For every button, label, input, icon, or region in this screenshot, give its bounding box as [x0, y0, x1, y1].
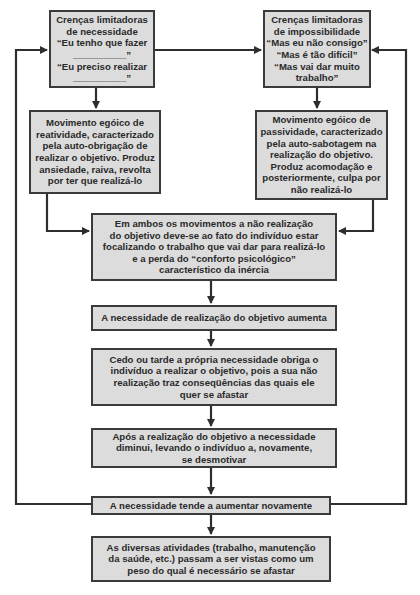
box-tende-aumentar: A necessidade tende a aumentar novamente [91, 496, 331, 515]
text-line: realização traz conseqüências das quais … [113, 377, 314, 389]
text-line: por ter que realizá-lo [48, 175, 142, 187]
text-line: __________” [73, 49, 131, 61]
text-line: quer se afastar [180, 389, 248, 401]
text-line: passividade, caracterizado [260, 126, 382, 138]
text-line: posteriormente, culpa por [262, 172, 380, 184]
text-line: trabalho” [296, 72, 339, 84]
text-line: __________” [73, 72, 131, 84]
text-line: realizar o objetivo. Produz [35, 152, 154, 164]
text-line: da saúde, etc.) passam a ser vistas como… [108, 553, 313, 565]
text-line: Cedo ou tarde a própria necessidade obri… [110, 354, 319, 366]
text-line: característico da inércia [159, 264, 269, 276]
box-movimento-reatividade: Movimento egóico de reatividade, caracte… [29, 110, 161, 194]
box-necessidade-aumenta: A necessidade de realização do objetivo … [91, 305, 337, 331]
text-line: “Eu tenho que fazer [57, 37, 148, 49]
text-line: Produz acomodação e [271, 161, 373, 173]
text-line: não realizá-lo [291, 184, 352, 196]
text-line: focalizando o trabalho que vai dar para … [103, 241, 325, 253]
text-line: pela auto-sabotagem na [267, 138, 377, 150]
text-line: Crenças limitadoras [271, 14, 363, 26]
text-line: Crenças limitadoras [56, 14, 148, 26]
box-movimento-passividade: Movimento egóico de passividade, caracte… [255, 110, 388, 200]
box-ambos-movimentos: Em ambos os movimentos a não realização … [91, 213, 337, 281]
text-line: peso do qual é necessário se afastar [127, 565, 294, 577]
text-line: do objetivo deve-se ao fato do indivíduo… [110, 230, 319, 242]
text-line: Movimento egóico de [46, 117, 144, 129]
text-line: diminui, levando o indivíduo a, novament… [116, 442, 312, 454]
text-line: As diversas atividades (trabalho, manute… [106, 542, 315, 554]
text-line: Após a realização do objetivo a necessid… [112, 431, 315, 443]
text-line: de necessidade [66, 26, 137, 38]
text-line: se desmotivar [182, 454, 247, 466]
text-line: de impossibilidade [274, 26, 360, 38]
text-line: Em ambos os movimentos a não realização [115, 218, 313, 230]
text-line: “Eu preciso realizar [57, 61, 147, 73]
box-cedo-ou-tarde: Cedo ou tarde a própria necessidade obri… [91, 348, 337, 406]
arrow-passividade-to-ambos [339, 200, 373, 231]
text-line: indivíduo a realizar o objetivo, pois a … [111, 365, 318, 377]
text-line: A necessidade tende a aumentar novamente [110, 500, 312, 512]
text-line: “Mas vai dar muito [274, 61, 360, 73]
text-line: ansiedade, raiva, revolta [39, 164, 150, 176]
box-diversas-atividades: As diversas atividades (trabalho, manute… [91, 536, 331, 582]
text-line: Movimento egóico de [272, 114, 370, 126]
text-line: realização do objetivo. [270, 149, 373, 161]
text-line: e a perda do “conforto psicológico” [132, 253, 296, 265]
box-apos-realizacao: Após a realização do objetivo a necessid… [91, 428, 337, 468]
text-line: pela auto-obrigação de [42, 140, 147, 152]
box-crencas-impossibilidade: Crenças limitadoras de impossibilidade “… [263, 10, 371, 88]
box-crencas-necessidade: Crenças limitadoras de necessidade “Eu t… [49, 10, 155, 88]
text-line: A necessidade de realização do objetivo … [101, 312, 327, 324]
text-line: reatividade, caracterizado [36, 129, 154, 141]
arrow-reatividade-to-ambos [47, 194, 89, 231]
text-line: “Mas é tão difícil” [276, 49, 357, 61]
text-line: “Mas eu não consigo” [266, 37, 367, 49]
